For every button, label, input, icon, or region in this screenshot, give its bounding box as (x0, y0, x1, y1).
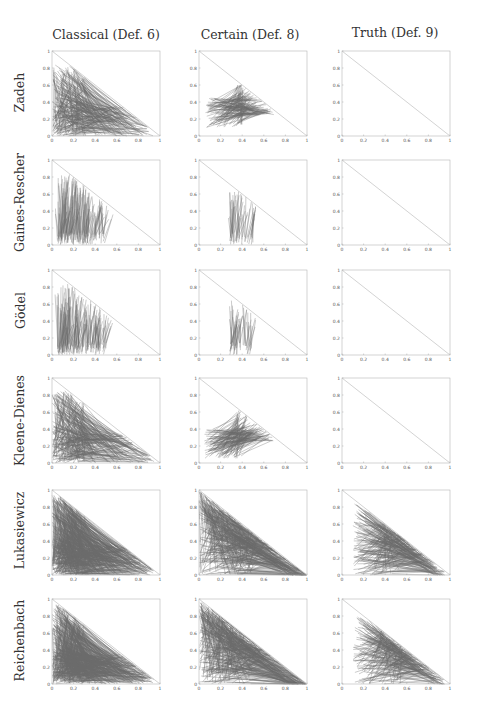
svg-text:0.6: 0.6 (190, 631, 197, 636)
row-label-godel: Gödel (0, 263, 40, 358)
svg-text:0.6: 0.6 (113, 138, 120, 143)
svg-text:0.4: 0.4 (43, 648, 50, 653)
svg-text:1: 1 (306, 247, 309, 252)
svg-text:1: 1 (47, 376, 50, 381)
svg-text:0.6: 0.6 (260, 247, 267, 252)
svg-text:0: 0 (341, 577, 344, 582)
svg-text:0.4: 0.4 (239, 465, 246, 470)
svg-text:0.2: 0.2 (43, 444, 50, 449)
svg-text:0.6: 0.6 (403, 686, 410, 691)
svg-text:0: 0 (337, 353, 340, 358)
svg-text:1: 1 (306, 686, 309, 691)
svg-text:0.8: 0.8 (135, 247, 142, 252)
plot-panel-gdel-classical: 00.20.40.60.8100.20.40.60.81 (52, 270, 160, 355)
svg-text:0.6: 0.6 (43, 522, 50, 527)
svg-text:0.8: 0.8 (425, 465, 432, 470)
svg-text:0.4: 0.4 (92, 357, 99, 362)
plot-panel-lukasiewicz-truth: 00.20.40.60.8100.20.40.60.81 (342, 490, 450, 575)
svg-text:0.2: 0.2 (43, 117, 50, 122)
svg-text:0: 0 (194, 461, 197, 466)
svg-text:0: 0 (341, 247, 344, 252)
svg-text:0: 0 (198, 577, 201, 582)
svg-text:0: 0 (194, 573, 197, 578)
svg-text:1: 1 (47, 597, 50, 602)
svg-text:1: 1 (47, 158, 50, 163)
svg-text:0.8: 0.8 (333, 505, 340, 510)
svg-text:1: 1 (159, 686, 162, 691)
svg-text:1: 1 (159, 465, 162, 470)
svg-text:0.4: 0.4 (43, 539, 50, 544)
row-label-lukasiewicz: Lukasiewicz (0, 483, 40, 578)
svg-text:1: 1 (194, 158, 197, 163)
svg-text:0.8: 0.8 (43, 505, 50, 510)
svg-text:0.6: 0.6 (190, 522, 197, 527)
svg-text:0.6: 0.6 (333, 83, 340, 88)
plot-panel-gdel-truth: 00.20.40.60.8100.20.40.60.81 (342, 270, 450, 355)
svg-text:0.8: 0.8 (190, 505, 197, 510)
svg-text:1: 1 (194, 268, 197, 273)
svg-text:0: 0 (51, 577, 54, 582)
svg-text:0.4: 0.4 (382, 577, 389, 582)
svg-text:0.8: 0.8 (43, 614, 50, 619)
svg-text:1: 1 (449, 138, 452, 143)
svg-text:0.8: 0.8 (425, 577, 432, 582)
svg-text:0.2: 0.2 (70, 577, 77, 582)
svg-text:0.4: 0.4 (43, 209, 50, 214)
svg-text:0.6: 0.6 (113, 357, 120, 362)
svg-text:1: 1 (337, 376, 340, 381)
svg-text:0.8: 0.8 (282, 357, 289, 362)
svg-text:0.2: 0.2 (43, 665, 50, 670)
plot-panel-gainesrescher-certain: 00.20.40.60.8100.20.40.60.81 (199, 160, 307, 245)
plot-panel-reichenbach-truth: 00.20.40.60.8100.20.40.60.81 (342, 599, 450, 684)
column-title-certain: Certain (Def. 8) (180, 27, 320, 42)
svg-text:0.4: 0.4 (382, 357, 389, 362)
svg-text:1: 1 (47, 488, 50, 493)
svg-text:0.6: 0.6 (43, 631, 50, 636)
svg-text:0: 0 (198, 138, 201, 143)
svg-text:0: 0 (51, 686, 54, 691)
svg-text:0.6: 0.6 (43, 83, 50, 88)
svg-text:0: 0 (194, 682, 197, 687)
svg-text:0.4: 0.4 (239, 138, 246, 143)
svg-text:0.4: 0.4 (382, 686, 389, 691)
svg-text:0: 0 (341, 357, 344, 362)
plot-panel-zadeh-truth: 00.20.40.60.8100.20.40.60.81 (342, 51, 450, 136)
svg-text:0: 0 (337, 682, 340, 687)
svg-text:0.4: 0.4 (239, 247, 246, 252)
svg-text:0.8: 0.8 (333, 393, 340, 398)
svg-text:0.2: 0.2 (360, 686, 367, 691)
svg-text:0.4: 0.4 (190, 648, 197, 653)
svg-text:0.4: 0.4 (333, 427, 340, 432)
row-label-kleene-dienes: Kleene-Dienes (0, 373, 40, 468)
svg-text:0: 0 (47, 353, 50, 358)
plot-panel-reichenbach-classical: 00.20.40.60.8100.20.40.60.81 (52, 599, 160, 684)
svg-text:0.6: 0.6 (113, 686, 120, 691)
svg-text:0.6: 0.6 (333, 522, 340, 527)
svg-text:0: 0 (337, 243, 340, 248)
svg-text:0.6: 0.6 (43, 302, 50, 307)
svg-text:0.4: 0.4 (190, 427, 197, 432)
svg-text:0: 0 (341, 138, 344, 143)
plot-panel-gainesrescher-classical: 00.20.40.60.8100.20.40.60.81 (52, 160, 160, 245)
svg-text:0.4: 0.4 (43, 427, 50, 432)
svg-text:0: 0 (194, 353, 197, 358)
svg-text:0: 0 (194, 134, 197, 139)
plot-panel-zadeh-classical: 00.20.40.60.8100.20.40.60.81 (52, 51, 160, 136)
svg-text:0.2: 0.2 (333, 556, 340, 561)
svg-text:0.4: 0.4 (239, 357, 246, 362)
svg-text:0.6: 0.6 (43, 410, 50, 415)
svg-text:0.2: 0.2 (70, 465, 77, 470)
svg-text:0.2: 0.2 (333, 117, 340, 122)
svg-text:0.4: 0.4 (190, 209, 197, 214)
plot-panel-kleenedienes-truth: 00.20.40.60.8100.20.40.60.81 (342, 378, 450, 463)
svg-text:0.2: 0.2 (360, 138, 367, 143)
svg-text:0: 0 (198, 357, 201, 362)
svg-text:0.6: 0.6 (260, 686, 267, 691)
svg-text:0.2: 0.2 (190, 556, 197, 561)
svg-text:0.2: 0.2 (360, 357, 367, 362)
svg-text:0.6: 0.6 (260, 357, 267, 362)
svg-text:0.2: 0.2 (43, 556, 50, 561)
svg-text:1: 1 (449, 686, 452, 691)
svg-text:0.4: 0.4 (382, 138, 389, 143)
svg-text:0.4: 0.4 (333, 539, 340, 544)
